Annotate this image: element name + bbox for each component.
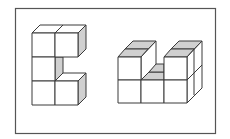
diagram-canvas [0,0,230,139]
